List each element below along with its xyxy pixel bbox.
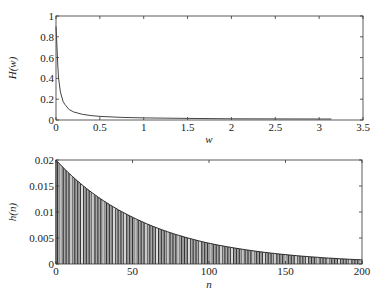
y-tick-label: 0 xyxy=(49,114,55,126)
bottom-plot-xlabel: n xyxy=(206,278,212,290)
top-plot-axes-box xyxy=(56,16,363,120)
x-tick-label: 0 xyxy=(53,121,59,133)
y-tick-label: 0.005 xyxy=(29,232,54,244)
top-plot-ticks: 00.511.522.533.500.20.40.60.81 xyxy=(40,10,370,133)
top-plot-ylabel: H(w) xyxy=(6,56,19,80)
x-tick-label: 150 xyxy=(277,265,294,277)
y-tick-label: 0.4 xyxy=(40,72,54,84)
y-tick-label: 0.015 xyxy=(29,180,54,192)
y-tick-label: 0.6 xyxy=(40,52,54,64)
x-tick-label: 2.5 xyxy=(268,121,282,133)
x-tick-label: 200 xyxy=(354,265,371,277)
y-tick-label: 0.02 xyxy=(35,154,54,166)
x-tick-label: 3.5 xyxy=(356,121,370,133)
x-tick-label: 50 xyxy=(127,265,139,277)
x-tick-label: 2 xyxy=(229,121,235,133)
bottom-plot-impulse-response: 05010015020000.0050.010.0150.02 n h(n) xyxy=(6,154,371,290)
y-tick-label: 0 xyxy=(49,258,55,270)
x-tick-label: 0.5 xyxy=(93,121,107,133)
y-tick-label: 0.2 xyxy=(40,93,54,105)
y-tick-label: 0.8 xyxy=(40,31,54,43)
bottom-plot-stems xyxy=(56,160,362,264)
top-plot-xlabel: w xyxy=(205,133,213,145)
x-tick-label: 3 xyxy=(316,121,322,133)
y-tick-label: 1 xyxy=(49,10,55,22)
figure: 00.511.522.533.500.20.40.60.81 w H(w) 05… xyxy=(0,0,385,299)
x-tick-label: 100 xyxy=(201,265,218,277)
top-plot-frequency-response: 00.511.522.533.500.20.40.60.81 w H(w) xyxy=(6,10,370,145)
bottom-plot-ylabel: h(n) xyxy=(6,203,19,222)
x-tick-label: 0 xyxy=(53,265,59,277)
top-plot-curve xyxy=(56,26,331,119)
y-tick-label: 0.01 xyxy=(35,206,54,218)
x-tick-label: 1.5 xyxy=(181,121,195,133)
x-tick-label: 1 xyxy=(141,121,147,133)
